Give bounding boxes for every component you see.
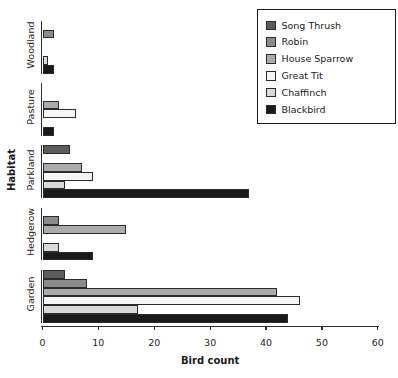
bar-great-tit <box>43 172 93 181</box>
bar-robin <box>43 279 88 288</box>
x-tick-mark <box>98 327 99 331</box>
bar-song-thrush <box>43 145 71 154</box>
x-tick-mark <box>321 327 322 331</box>
legend-item: Song Thrush <box>266 17 387 34</box>
y-tick-label: Pasture <box>25 90 36 125</box>
x-tick-label: 0 <box>39 337 45 348</box>
legend-swatch-house-sparrow <box>266 54 276 64</box>
legend-item: Blackbird <box>266 101 387 118</box>
bar-blackbird <box>43 127 54 136</box>
legend-swatch-song-thrush <box>266 21 276 31</box>
legend-swatch-robin <box>266 37 276 47</box>
bar-blackbird <box>43 65 54 74</box>
bar-great-tit <box>43 296 300 305</box>
bar-house-sparrow <box>43 225 127 234</box>
bar-chaffinch <box>43 243 60 252</box>
x-tick-label: 10 <box>92 337 104 348</box>
x-tick-mark <box>377 327 378 331</box>
y-tick-label: Hedgerow <box>25 208 36 256</box>
legend-label: Chaffinch <box>282 88 327 98</box>
legend-label: House Sparrow <box>282 54 354 64</box>
y-tick-label: Woodland <box>25 22 36 69</box>
y-axis-title: Habitat <box>6 149 17 191</box>
x-tick-mark <box>42 327 43 331</box>
legend-item: Great Tit <box>266 67 387 84</box>
bar-chaffinch <box>43 56 49 65</box>
legend-swatch-great-tit <box>266 71 276 81</box>
x-tick-label: 50 <box>316 337 328 348</box>
legend-swatch-chaffinch <box>266 88 276 98</box>
y-tick-label: Parkland <box>25 149 36 190</box>
bar-house-sparrow <box>43 101 60 110</box>
legend-label: Song Thrush <box>282 21 342 31</box>
x-tick-label: 40 <box>260 337 272 348</box>
bar-house-sparrow <box>43 288 278 297</box>
bar-blackbird <box>43 189 250 198</box>
x-axis-title: Bird count <box>181 355 239 366</box>
bar-chaffinch <box>43 181 65 190</box>
x-tick-mark <box>154 327 155 331</box>
x-tick-mark <box>265 327 266 331</box>
legend: Song ThrushRobinHouse SparrowGreat TitCh… <box>257 9 396 124</box>
bar-robin <box>43 30 54 39</box>
x-tick-label: 60 <box>372 337 384 348</box>
x-tick-label: 30 <box>204 337 216 348</box>
y-tick-label: Garden <box>25 277 36 312</box>
legend-label: Blackbird <box>282 105 326 115</box>
legend-label: Robin <box>282 37 309 47</box>
bar-chaffinch <box>43 305 138 314</box>
legend-item: House Sparrow <box>266 51 387 68</box>
bar-blackbird <box>43 252 93 261</box>
bar-house-sparrow <box>43 163 82 172</box>
legend-label: Great Tit <box>282 71 323 81</box>
bar-blackbird <box>43 314 289 323</box>
bar-chart: Habitat Bird count Song ThrushRobinHouse… <box>0 0 398 378</box>
x-tick-label: 20 <box>148 337 160 348</box>
legend-swatch-blackbird <box>266 105 276 115</box>
legend-item: Robin <box>266 34 387 51</box>
bar-song-thrush <box>43 270 65 279</box>
bar-great-tit <box>43 109 77 118</box>
x-tick-mark <box>210 327 211 331</box>
bar-robin <box>43 216 60 225</box>
legend-item: Chaffinch <box>266 84 387 101</box>
